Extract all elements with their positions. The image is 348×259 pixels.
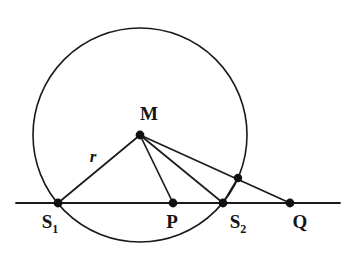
point-label-q: Q [293,211,308,232]
point-dot-t [234,174,242,182]
point-dot-s1 [54,199,63,208]
point-label-s1-base: S [42,211,53,232]
point-dot-p [169,199,178,208]
point-label-p: P [166,211,178,232]
point-label-m: M [140,103,158,124]
point-dot-m [136,131,145,140]
point-label-s2-subscript: 2 [240,222,246,236]
point-label-s2-base: S [230,211,241,232]
point-dot-s2 [219,199,228,208]
point-label-s1-subscript: 1 [52,222,58,236]
geometry-figure: M S1 P S2 Q r [0,0,348,259]
point-dot-q [286,199,295,208]
geometry-diagram: M S1 P S2 Q r [0,0,348,259]
radius-label-r: r [90,147,97,166]
